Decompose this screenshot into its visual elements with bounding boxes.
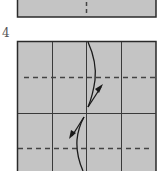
- step-number: 4: [2, 27, 10, 39]
- current-step-panel: [18, 42, 157, 172]
- origami-diagram: [0, 0, 160, 171]
- previous-step-panel: [18, 0, 157, 17]
